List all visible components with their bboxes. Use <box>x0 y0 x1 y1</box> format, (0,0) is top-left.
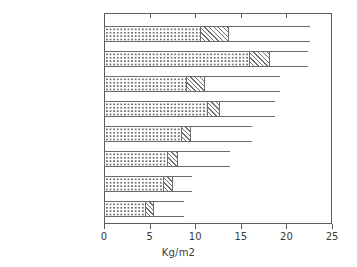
x-tick-15 <box>241 224 242 229</box>
bar-segment-hatched <box>187 77 205 91</box>
bar-segment-dotted <box>105 52 250 66</box>
plot-area <box>104 13 332 224</box>
x-tick-label-20: 20 <box>280 231 293 242</box>
bar-segment-hatched <box>250 52 270 66</box>
x-tick-label-25: 25 <box>326 231 339 242</box>
bar-segment-plain <box>154 202 185 216</box>
bar-segment-hatched <box>146 202 154 216</box>
bar-segment-hatched <box>208 102 220 116</box>
bar-pinyon-juniper <box>104 201 184 217</box>
bar-maple-beech-birch <box>104 101 275 117</box>
x-tick-label-5: 5 <box>146 231 152 242</box>
bar-oak-hickory <box>104 126 252 142</box>
x-tick-label-15: 15 <box>234 231 247 242</box>
x-tick-10 <box>195 224 196 229</box>
x-tick-top-5 <box>150 13 151 18</box>
bar-segment-hatched <box>164 177 173 191</box>
x-tick-20 <box>286 224 287 229</box>
bar-segment-dotted <box>105 177 164 191</box>
bar-segment-dotted <box>105 77 187 91</box>
bar-loblolly-natural <box>104 151 230 167</box>
bar-chart: Douglas fir Spruce-fir Lodgepole pine Ma… <box>0 0 357 267</box>
bar-segment-plain <box>191 127 253 141</box>
bar-lodgepole-pine <box>104 76 280 92</box>
x-tick-label-0: 0 <box>101 231 107 242</box>
bar-segment-dotted <box>105 127 182 141</box>
x-tick-25 <box>332 224 333 229</box>
bar-segment-hatched <box>201 27 229 41</box>
bar-segment-plain <box>178 152 231 166</box>
bar-segment-dotted <box>105 27 201 41</box>
bar-loblolly-planted <box>104 176 192 192</box>
x-tick-5 <box>150 224 151 229</box>
bar-segment-plain <box>205 77 281 91</box>
bar-spruce-fir <box>104 51 308 67</box>
x-tick-label-10: 10 <box>189 231 202 242</box>
x-tick-top-20 <box>286 13 287 18</box>
bar-douglas-fir <box>104 26 310 42</box>
x-tick-0 <box>104 224 105 229</box>
bar-segment-hatched <box>182 127 191 141</box>
bar-segment-dotted <box>105 152 168 166</box>
bar-segment-plain <box>229 27 311 41</box>
x-tick-top-10 <box>195 13 196 18</box>
bar-segment-plain <box>173 177 192 191</box>
bar-segment-dotted <box>105 102 208 116</box>
bar-segment-dotted <box>105 202 146 216</box>
bar-segment-plain <box>220 102 277 116</box>
x-axis-title: Kg/m2 <box>0 247 357 258</box>
bar-segment-hatched <box>168 152 178 166</box>
bar-segment-plain <box>270 52 309 66</box>
x-tick-top-15 <box>241 13 242 18</box>
